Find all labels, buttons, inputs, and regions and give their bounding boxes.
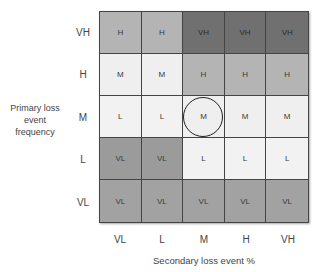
y-label-vl: VL xyxy=(70,197,96,208)
cell-h-l: M xyxy=(142,54,184,96)
y-label-h: H xyxy=(70,69,96,80)
cell-value: M xyxy=(242,112,249,121)
cell-h-vh: H xyxy=(266,54,308,96)
cell-value: L xyxy=(201,154,205,163)
cell-value: L xyxy=(243,154,247,163)
cell-value: L xyxy=(160,112,164,121)
cell-value: VL xyxy=(282,197,292,206)
x-label-vh: VH xyxy=(267,234,309,245)
x-axis-title: Secondary loss event % xyxy=(99,255,309,266)
cell-value: VH xyxy=(240,28,251,37)
cell-m-m: M xyxy=(183,96,225,138)
y-label-vh: VH xyxy=(70,27,96,38)
cell-vh-l: H xyxy=(142,12,184,54)
y-axis-title-line-3: frequency xyxy=(2,126,68,138)
y-axis-title-line-2: event xyxy=(2,114,68,126)
cell-value: VL xyxy=(240,197,250,206)
cell-vh-h: VH xyxy=(225,12,267,54)
cell-vl-vh: VL xyxy=(266,180,308,222)
cell-m-l: L xyxy=(142,96,184,138)
risk-matrix: H H VH VH VH M M H H H L L M M M VL VL L… xyxy=(99,11,309,223)
cell-value: H xyxy=(201,70,207,79)
cell-l-h: L xyxy=(225,138,267,180)
cell-value: L xyxy=(285,154,289,163)
y-axis-title: Primary loss event frequency xyxy=(2,102,68,138)
cell-value: M xyxy=(284,112,291,121)
cell-value: VL xyxy=(115,154,125,163)
y-axis-title-line-1: Primary loss xyxy=(2,102,68,114)
cell-l-l: VL xyxy=(142,138,184,180)
cell-h-h: H xyxy=(225,54,267,96)
cell-value: H xyxy=(242,70,248,79)
cell-value: H xyxy=(117,28,123,37)
cell-vh-m: VH xyxy=(183,12,225,54)
cell-value: H xyxy=(159,28,165,37)
y-label-l: L xyxy=(70,154,96,165)
cell-value: VL xyxy=(199,197,209,206)
cell-h-m: H xyxy=(183,54,225,96)
x-label-l: L xyxy=(141,234,183,245)
x-label-m: M xyxy=(183,234,225,245)
cell-m-h: M xyxy=(225,96,267,138)
cell-value: VL xyxy=(157,154,167,163)
cell-vl-h: VL xyxy=(225,180,267,222)
cell-value: M xyxy=(159,70,166,79)
cell-value: VH xyxy=(282,28,293,37)
cell-l-m: L xyxy=(183,138,225,180)
cell-l-vl: VL xyxy=(100,138,142,180)
cell-vl-l: VL xyxy=(142,180,184,222)
cell-h-vl: M xyxy=(100,54,142,96)
highlight-circle-icon xyxy=(183,97,223,137)
cell-vl-m: VL xyxy=(183,180,225,222)
cell-value: VL xyxy=(157,197,167,206)
x-label-h: H xyxy=(225,234,267,245)
cell-vl-vl: VL xyxy=(100,180,142,222)
cell-vh-vh: VH xyxy=(266,12,308,54)
cell-vh-vl: H xyxy=(100,12,142,54)
y-label-m: M xyxy=(70,112,96,123)
cell-value: M xyxy=(117,70,124,79)
cell-m-vh: M xyxy=(266,96,308,138)
cell-m-vl: L xyxy=(100,96,142,138)
x-label-vl: VL xyxy=(99,234,141,245)
cell-value: H xyxy=(284,70,290,79)
cell-value: VH xyxy=(198,28,209,37)
cell-value: L xyxy=(118,112,122,121)
cell-l-vh: L xyxy=(266,138,308,180)
cell-value: VL xyxy=(115,197,125,206)
